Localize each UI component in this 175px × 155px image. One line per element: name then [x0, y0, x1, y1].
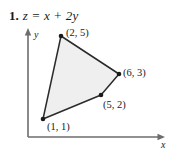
- vertex-dot-2-5: [59, 34, 64, 39]
- linear-programming-figure: 1.z = x + 2y y x (2, 5) (6, 3) (5, 2) (1…: [0, 0, 175, 155]
- vertex-dot-1-1: [41, 117, 46, 122]
- y-axis: [25, 28, 31, 137]
- vertex-label-5-2: (5, 2): [103, 100, 126, 111]
- x-axis: [28, 134, 165, 140]
- vertex-label-2-5: (2, 5): [66, 28, 89, 39]
- y-axis-label: y: [34, 30, 38, 40]
- plot-area: [0, 0, 175, 155]
- x-axis-label: x: [161, 140, 165, 150]
- vertex-dot-6-3: [117, 72, 122, 77]
- y-axis-arrow-icon: [25, 28, 31, 36]
- vertex-label-1-1: (1, 1): [47, 122, 70, 133]
- vertex-dot-5-2: [99, 93, 104, 98]
- vertex-label-6-3: (6, 3): [123, 68, 146, 79]
